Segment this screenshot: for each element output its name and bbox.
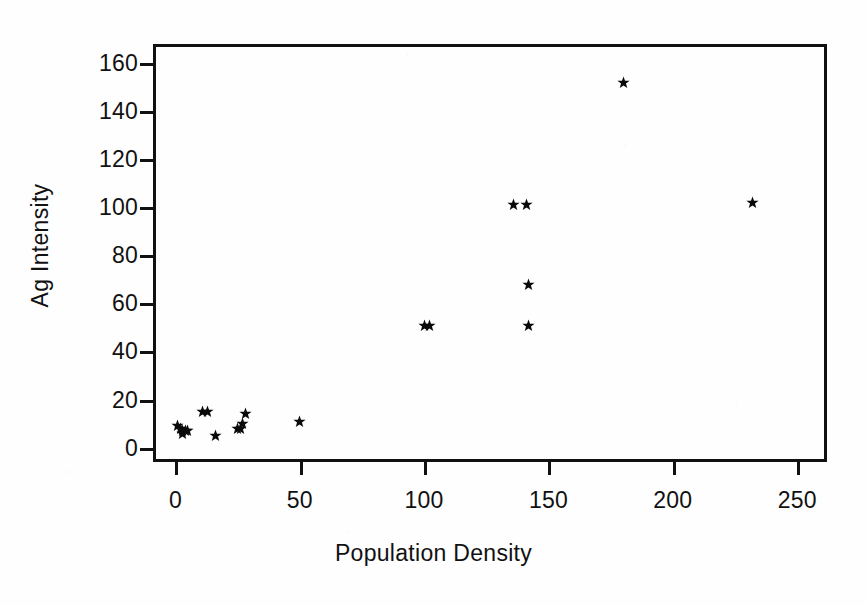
- x-axis-tick: [673, 462, 676, 475]
- y-axis-tick: [140, 207, 153, 210]
- x-axis-tick-labels: 050100150200250: [153, 487, 827, 519]
- y-axis-tick-label: 60: [112, 290, 138, 317]
- y-axis-tick-label: 120: [99, 146, 138, 173]
- x-axis-tick: [424, 462, 427, 475]
- data-point-marker: [201, 405, 214, 418]
- y-axis-tick-label: 140: [99, 98, 138, 125]
- y-axis-tick: [140, 255, 153, 258]
- scatter-plot-figure: 020406080100120140160 050100150200250 Po…: [0, 0, 867, 605]
- x-axis-tick-label: 0: [169, 487, 182, 514]
- x-axis-tick-label: 150: [529, 487, 568, 514]
- y-axis-tick-label: 160: [99, 50, 138, 77]
- y-axis-tick: [140, 448, 153, 451]
- x-axis-title: Population Density: [0, 540, 867, 567]
- data-point-marker: [520, 198, 533, 211]
- y-axis-tick: [140, 159, 153, 162]
- x-axis-tick: [300, 462, 303, 475]
- y-axis-tick: [140, 400, 153, 403]
- data-point-marker: [293, 415, 306, 428]
- data-point-marker: [423, 319, 436, 332]
- y-axis-tick-labels: 020406080100120140160: [0, 44, 138, 462]
- y-axis-tick: [140, 351, 153, 354]
- x-axis-tick-label: 100: [405, 487, 444, 514]
- data-point-marker: [209, 429, 222, 442]
- y-axis-title: Ag Intensity: [27, 116, 54, 376]
- data-point-marker: [507, 198, 520, 211]
- x-axis-tick-label: 250: [778, 487, 817, 514]
- x-axis-tick-label: 50: [287, 487, 313, 514]
- data-point-marker: [239, 407, 252, 420]
- x-axis-tick: [175, 462, 178, 475]
- y-axis-tick: [140, 303, 153, 306]
- plot-area: [153, 44, 827, 462]
- data-point-marker: [617, 76, 630, 89]
- y-axis-tick-label: 40: [112, 338, 138, 365]
- x-axis-tick: [548, 462, 551, 475]
- data-point-marker: [181, 424, 194, 437]
- x-axis-tick: [797, 462, 800, 475]
- data-point-marker: [522, 319, 535, 332]
- y-axis-tick: [140, 111, 153, 114]
- y-axis-tick-label: 20: [112, 386, 138, 413]
- data-point-marker: [746, 196, 759, 209]
- y-axis-tick-label: 0: [125, 434, 138, 461]
- data-point-marker: [522, 278, 535, 291]
- y-axis-tick-label: 100: [99, 194, 138, 221]
- y-axis-tick: [140, 63, 153, 66]
- x-axis-tick-label: 200: [653, 487, 692, 514]
- y-axis-tick-label: 80: [112, 242, 138, 269]
